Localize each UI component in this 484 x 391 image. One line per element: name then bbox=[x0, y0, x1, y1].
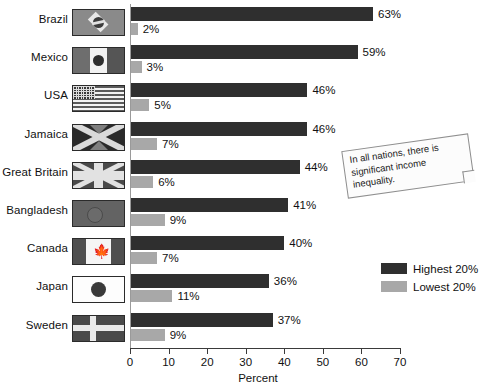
x-axis-tick bbox=[284, 349, 285, 354]
bar-value-lowest-20: 3% bbox=[147, 61, 164, 73]
bar-highest-20 bbox=[130, 198, 288, 212]
bar-highest-20 bbox=[130, 7, 373, 21]
y-axis-line bbox=[130, 4, 131, 348]
x-axis-tick-label: 40 bbox=[278, 356, 291, 368]
bar-highest-20 bbox=[130, 83, 307, 97]
bar-value-highest-20: 46% bbox=[312, 84, 335, 96]
x-axis-tick-label: 30 bbox=[239, 356, 252, 368]
flag-icon-japan bbox=[72, 276, 125, 303]
x-axis-tick bbox=[169, 349, 170, 354]
x-axis-tick bbox=[246, 349, 247, 354]
country-label-box: Japan bbox=[0, 271, 68, 307]
bar-value-highest-20: 46% bbox=[312, 123, 335, 135]
bar-lowest-20 bbox=[130, 23, 138, 35]
bar-value-highest-20: 41% bbox=[293, 199, 316, 211]
country-label: Canada bbox=[0, 242, 68, 254]
bar-lowest-20 bbox=[130, 329, 165, 341]
x-axis-line bbox=[130, 348, 401, 349]
country-label: Bangladesh bbox=[0, 204, 68, 216]
legend-item-lowest: Lowest 20% bbox=[381, 277, 478, 292]
bar-lowest-20 bbox=[130, 252, 157, 264]
bar-value-highest-20: 59% bbox=[363, 46, 386, 58]
country-label: Brazil bbox=[0, 13, 68, 25]
bar-value-lowest-20: 11% bbox=[177, 290, 199, 302]
bar-lowest-20 bbox=[130, 176, 153, 188]
bar-lowest-20 bbox=[130, 214, 165, 226]
income-inequality-bar-chart: Brazil63%2%Mexico59%3%USA46%5%Jamaica46%… bbox=[0, 0, 484, 391]
flag-icon-brazil bbox=[72, 9, 125, 36]
bar-lowest-20 bbox=[130, 138, 157, 150]
bar-value-highest-20: 36% bbox=[274, 275, 297, 287]
country-label: Mexico bbox=[0, 51, 68, 63]
x-axis-tick bbox=[207, 349, 208, 354]
chart-row: USA46%5% bbox=[0, 80, 484, 116]
bar-value-lowest-20: 9% bbox=[170, 214, 187, 226]
x-axis-title-label: Percent bbox=[238, 372, 278, 384]
country-label: Great Britain bbox=[0, 166, 68, 178]
country-label-box: Jamaica bbox=[0, 119, 68, 155]
x-axis-tick-label: 20 bbox=[201, 356, 214, 368]
bar-lowest-20 bbox=[130, 99, 149, 111]
bar-highest-20 bbox=[130, 160, 300, 174]
bar-value-highest-20: 37% bbox=[278, 314, 301, 326]
chart-row: Sweden37%9% bbox=[0, 310, 484, 346]
country-label: Japan bbox=[0, 280, 68, 292]
bar-value-lowest-20: 9% bbox=[170, 329, 187, 341]
country-label-box: Brazil bbox=[0, 4, 68, 40]
chart-row: Bangladesh41%9% bbox=[0, 195, 484, 231]
country-label: Sweden bbox=[0, 319, 68, 331]
x-axis-title: Percent bbox=[0, 372, 484, 384]
flag-icon-mexico bbox=[72, 47, 125, 74]
bar-value-lowest-20: 7% bbox=[162, 138, 179, 150]
x-axis-tick bbox=[130, 349, 131, 354]
flag-icon-canada: 🍁 bbox=[72, 238, 125, 265]
bar-value-highest-20: 40% bbox=[289, 237, 312, 249]
country-label-box: Sweden bbox=[0, 310, 68, 346]
bar-value-highest-20: 63% bbox=[378, 8, 401, 20]
x-axis-tick bbox=[400, 349, 401, 354]
bar-highest-20 bbox=[130, 236, 284, 250]
country-label-box: USA bbox=[0, 80, 68, 116]
chart-row: Mexico59%3% bbox=[0, 42, 484, 78]
country-label: USA bbox=[0, 89, 68, 101]
bar-highest-20 bbox=[130, 313, 273, 327]
flag-icon-sweden bbox=[72, 315, 125, 342]
legend-label-lowest: Lowest 20% bbox=[413, 281, 476, 293]
bar-value-lowest-20: 7% bbox=[162, 252, 179, 264]
bar-highest-20 bbox=[130, 45, 358, 59]
bar-value-lowest-20: 6% bbox=[158, 176, 175, 188]
flag-icon-great-britain bbox=[72, 162, 125, 189]
bar-value-lowest-20: 2% bbox=[143, 23, 160, 35]
bar-highest-20 bbox=[130, 122, 307, 136]
legend-label-highest: Highest 20% bbox=[413, 263, 478, 275]
country-label-box: Bangladesh bbox=[0, 195, 68, 231]
x-axis-tick-label: 70 bbox=[394, 356, 407, 368]
x-axis-tick-label: 10 bbox=[162, 356, 175, 368]
country-label-box: Great Britain bbox=[0, 157, 68, 193]
flag-icon-usa bbox=[72, 85, 125, 112]
country-label: Jamaica bbox=[0, 128, 68, 140]
x-axis-tick bbox=[361, 349, 362, 354]
legend-item-highest: Highest 20% bbox=[381, 259, 478, 274]
legend-swatch-lowest bbox=[381, 281, 407, 292]
bar-lowest-20 bbox=[130, 61, 142, 73]
legend-swatch-highest bbox=[381, 263, 407, 274]
bar-value-lowest-20: 5% bbox=[154, 99, 171, 111]
chart-row: Brazil63%2% bbox=[0, 4, 484, 40]
x-axis-tick-label: 0 bbox=[127, 356, 133, 368]
country-label-box: Mexico bbox=[0, 42, 68, 78]
x-axis-tick-label: 60 bbox=[355, 356, 368, 368]
country-label-box: Canada bbox=[0, 233, 68, 269]
chart-legend: Highest 20% Lowest 20% bbox=[381, 259, 478, 295]
x-axis-tick bbox=[323, 349, 324, 354]
x-axis-tick-label: 50 bbox=[316, 356, 329, 368]
flag-icon-jamaica bbox=[72, 124, 125, 151]
bar-value-highest-20: 44% bbox=[305, 161, 328, 173]
bar-lowest-20 bbox=[130, 290, 172, 302]
bar-highest-20 bbox=[130, 274, 269, 288]
flag-icon-bangladesh bbox=[72, 200, 125, 227]
